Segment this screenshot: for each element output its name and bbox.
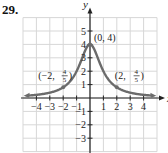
- y-tick-label: −1: [75, 106, 86, 117]
- x-tick-label: −4: [31, 101, 42, 112]
- x-axis-arrow-icon: [159, 96, 165, 101]
- y-tick-label: 2: [81, 66, 86, 77]
- x-tick-label: 2: [114, 101, 119, 112]
- point-annotations: (0, 4)(−2, 45)(2, 45): [38, 32, 144, 84]
- annotation-right: (2, 45): [115, 68, 144, 84]
- y-tick-label: 3: [81, 52, 86, 63]
- curve-right-arrow-icon: [150, 93, 156, 98]
- svg-text:): ): [69, 70, 72, 82]
- svg-text:(−2,: (−2,: [38, 70, 54, 82]
- y-tick-label: 5: [81, 26, 86, 37]
- svg-text:4: 4: [135, 68, 139, 76]
- y-tick-label: 1: [81, 79, 86, 90]
- function-graph: −4−3−2−11234−3−2−112345xy (0, 4)(−2, 45)…: [0, 0, 168, 153]
- x-tick-label: 4: [141, 101, 146, 112]
- annotation-left: (−2, 45): [38, 68, 72, 84]
- svg-text:5: 5: [135, 76, 139, 84]
- labeled-point: [88, 42, 92, 46]
- x-tick-label: −3: [44, 101, 55, 112]
- y-axis-label: y: [82, 0, 88, 10]
- labeled-point: [115, 85, 119, 89]
- svg-text:4: 4: [63, 68, 67, 76]
- y-axis-arrow-icon: [88, 8, 93, 14]
- x-tick-label: −2: [58, 101, 69, 112]
- svg-text:): ): [141, 70, 144, 82]
- x-tick-label: 3: [128, 101, 133, 112]
- x-tick-label: 1: [101, 101, 106, 112]
- x-axis-label: x: [166, 92, 168, 104]
- y-tick-label: −3: [75, 133, 86, 144]
- y-tick-label: −2: [75, 119, 86, 130]
- svg-text:5: 5: [63, 76, 67, 84]
- annotation-peak: (0, 4): [94, 32, 116, 44]
- curve-left-arrow-icon: [24, 93, 30, 98]
- y-tick-label: 4: [81, 39, 86, 50]
- svg-text:(2,: (2,: [115, 70, 126, 82]
- labeled-point: [61, 85, 65, 89]
